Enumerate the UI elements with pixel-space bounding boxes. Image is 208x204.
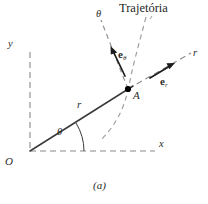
polar-coordinates-diagram xyxy=(0,0,208,204)
e-theta-subscript-glyph: θ xyxy=(123,54,126,61)
figure-container: Trajetória θ y x r r θ O A eθ er (a) xyxy=(0,0,208,204)
radial-line-segment xyxy=(30,86,133,151)
trajectory-title-label: Trajetória xyxy=(119,2,168,15)
theta-axis-label: θ xyxy=(96,9,101,20)
unit-vector-e-r-label: er xyxy=(160,76,168,87)
origin-label: O xyxy=(5,156,13,167)
theta-angle-label: θ xyxy=(57,127,62,138)
theta-angle-arc xyxy=(76,123,84,151)
point-a-marker xyxy=(125,86,131,92)
r-axis-label: r xyxy=(193,48,197,59)
point-a-label: A xyxy=(133,90,140,101)
x-axis-label: x xyxy=(159,139,164,150)
e-r-subscript-glyph: r xyxy=(165,81,168,88)
unit-vector-e-theta-label: eθ xyxy=(118,49,126,60)
radial-distance-label: r xyxy=(77,99,81,110)
trajectory-label-leader xyxy=(150,16,152,19)
figure-caption: (a) xyxy=(93,180,106,191)
y-axis-label: y xyxy=(8,39,13,50)
